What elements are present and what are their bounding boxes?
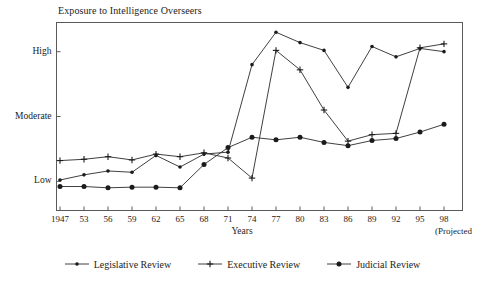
y-axis-label-high: High <box>33 46 52 56</box>
legend-label: Judicial Review <box>356 259 420 270</box>
plot-area <box>0 0 484 292</box>
legend-label: Executive Review <box>227 259 300 270</box>
legend-label: Legislative Review <box>94 259 171 270</box>
y-axis-label-moderate: Moderate <box>15 111 51 121</box>
large-dot-marker-icon <box>326 258 352 270</box>
chart-figure: Exposure to Intelligence Overseers LowMo… <box>0 0 484 292</box>
legend-item-judicial-review[interactable]: Judicial Review <box>326 258 420 270</box>
plot-frame <box>57 23 463 211</box>
plus-marker-icon <box>197 258 223 270</box>
projected-note: (Projected <box>435 226 472 236</box>
x-axis-title: Years <box>0 226 484 236</box>
legend-item-legislative-review[interactable]: Legislative Review <box>64 258 171 270</box>
chart-legend: Legislative ReviewExecutive ReviewJudici… <box>0 258 484 270</box>
x-axis-label-98: 98 <box>428 214 460 224</box>
legend-item-executive-review[interactable]: Executive Review <box>197 258 300 270</box>
y-axis-label-low: Low <box>34 175 51 185</box>
small-dot-marker-icon <box>64 258 90 270</box>
